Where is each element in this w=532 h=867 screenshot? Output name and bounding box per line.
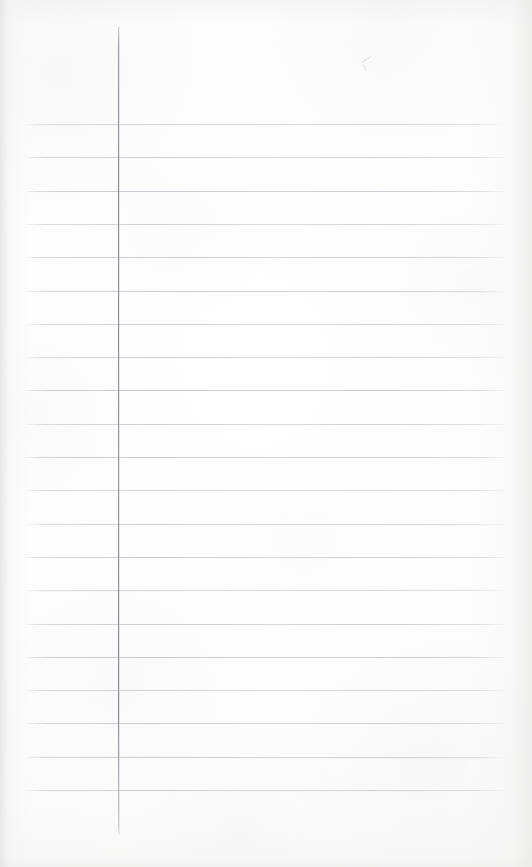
notebook-page <box>0 0 532 867</box>
margin-rule-line <box>118 27 119 835</box>
paper-surface <box>0 0 532 867</box>
